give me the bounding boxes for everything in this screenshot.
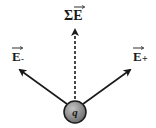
field-plus-arrow <box>83 70 130 104</box>
field-plus-text: E <box>133 49 142 64</box>
field-minus-text: E <box>12 49 21 64</box>
sum-field-label: ΣE <box>64 6 85 24</box>
field-plus-sign: + <box>142 53 148 64</box>
sum-field-text: ΣE <box>64 8 83 23</box>
field-minus-label: E - <box>12 47 24 65</box>
charge-q: q <box>64 101 86 123</box>
field-minus-sign: - <box>21 54 24 64</box>
field-plus-label: E + <box>133 47 148 65</box>
field-vector-diagram: ΣE E - E + q <box>0 0 156 128</box>
charge-label: q <box>72 106 78 118</box>
field-minus-arrow <box>20 70 67 104</box>
